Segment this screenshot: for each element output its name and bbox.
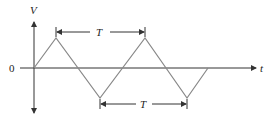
v-axis-label: V xyxy=(30,4,38,16)
t-axis-label: t xyxy=(260,62,264,74)
period-label-top: T xyxy=(96,26,103,38)
period-label-bottom: T xyxy=(140,98,147,110)
triangle-wave-diagram: V t 0 T T xyxy=(0,0,273,120)
origin-label: 0 xyxy=(9,62,15,74)
